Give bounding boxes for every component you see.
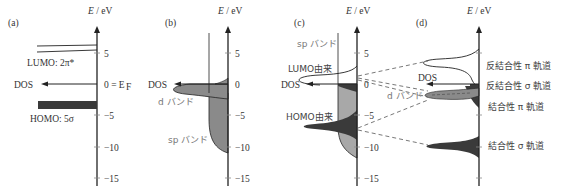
svg-text:−15: −15 (235, 174, 250, 184)
panel-c-label: (c) (294, 18, 305, 29)
svg-text:5: 5 (235, 49, 240, 59)
axis-arrow-icon (354, 26, 360, 33)
sp-band-fill (209, 93, 228, 153)
panel-b: (b) E / eV 5 0 −5 −10 −15 DOS d バンド sp バ… (148, 6, 250, 186)
dos-label-c: DOS (281, 80, 300, 90)
axis-label-a: E / eV (87, 6, 112, 16)
panel-c: (c) E / eV 5 0 −5 −10 −15 DOS sp バンド (281, 6, 379, 186)
arrow-left-icon (306, 82, 313, 87)
bonding-pi-label: 結合性 π 軌道 (488, 101, 544, 112)
ticks-c: 5 0 −5 −10 −15 (354, 49, 379, 184)
homo-label: HOMO: 5σ (30, 114, 74, 124)
panel-b-label: (b) (165, 18, 176, 29)
svg-text:−15: −15 (364, 174, 379, 184)
d-band-label-d: d バンド (387, 91, 423, 101)
axis-arrow-icon (94, 26, 100, 33)
lumo-line (37, 45, 97, 46)
lumo-label: LUMO: 2π* (27, 58, 75, 68)
panel-d-label: (d) (416, 18, 427, 29)
axis-label-b: E / eV (217, 6, 242, 16)
svg-text:0: 0 (235, 80, 240, 90)
svg-text:5: 5 (104, 49, 109, 59)
arrow-left-icon (41, 82, 48, 87)
ticks-b: 5 0 −5 −10 −15 (225, 49, 250, 184)
svg-text:−15: −15 (104, 174, 119, 184)
dos-label-d: DOS (418, 73, 437, 83)
arrow-left-icon (174, 82, 181, 87)
lumo-line (37, 50, 97, 52)
bonding-sigma-label: 結合性 σ 軌道 (488, 140, 544, 151)
dos-label-b: DOS (148, 80, 167, 90)
homo-bar (38, 101, 97, 109)
axis-label-d: E / eV (466, 6, 491, 16)
sp-band-label-c: sp バンド (297, 39, 337, 49)
lumo-origin-label: LUMO由来 (288, 63, 332, 74)
svg-text:−10: −10 (104, 143, 119, 153)
dos-label-a: DOS (14, 80, 33, 90)
axis-arrow-icon (476, 26, 482, 33)
svg-text:0: 0 (364, 80, 369, 90)
svg-text:−5: −5 (364, 111, 374, 121)
homo-origin-label: HOMO由来 (286, 111, 333, 122)
panel-a-label: (a) (8, 18, 19, 29)
svg-text:−10: −10 (364, 143, 379, 153)
antibonding-sigma-label: 反結合性 σ 軌道 (486, 80, 551, 91)
d-band-label-b: d バンド (158, 97, 194, 107)
svg-text:0 = E: 0 = E (104, 80, 125, 90)
svg-text:−10: −10 (235, 143, 250, 153)
axis-label-c: E / eV (345, 6, 370, 16)
antibonding-pi-label: 反結合性 π 軌道 (486, 60, 551, 71)
ticks-a: 5 −5 −10 −15 0 = E F (94, 49, 131, 184)
svg-text:5: 5 (364, 49, 369, 59)
axis-arrow-icon (225, 26, 231, 33)
svg-text:−5: −5 (235, 111, 245, 121)
panel-a: (a) E / eV 5 −5 −10 −15 0 = E F LUMO: 2π… (8, 6, 131, 186)
svg-text:F: F (126, 82, 131, 92)
svg-text:−5: −5 (104, 111, 114, 121)
panel-d: (d) E / eV DOS d バンド 反結合性 π 軌道 反結合性 σ 軌道… (387, 6, 551, 186)
bonding-sigma-peak (427, 136, 480, 158)
sp-band-label-b: sp バンド (168, 135, 208, 145)
dos-diagram: (a) E / eV 5 −5 −10 −15 0 = E F LUMO: 2π… (0, 0, 566, 194)
